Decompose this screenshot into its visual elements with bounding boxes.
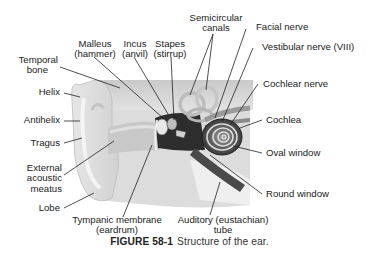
label-malleus-line2: (hammer) xyxy=(69,49,121,59)
label-tragus: Tragus xyxy=(2,138,60,148)
ear-structure-figure: Malleus (hammer) Incus (anvil) Stapes (s… xyxy=(0,0,379,253)
label-tympanic-line2: (eardrum) xyxy=(62,225,172,235)
label-incus: Incus (anvil) xyxy=(117,39,153,60)
figure-number: FIGURE 58-1 xyxy=(110,236,173,247)
label-auditory-line2: tube xyxy=(170,225,276,235)
label-incus-line2: (anvil) xyxy=(117,49,153,59)
figure-caption-text: Structure of the ear. xyxy=(177,236,269,247)
temporal-bone-shape xyxy=(98,80,253,110)
label-tympanic-membrane: Tympanic membrane (eardrum) xyxy=(62,215,172,236)
label-external-acoustic-meatus: External acoustic meatus xyxy=(2,163,62,194)
label-cochlear-nerve: Cochlear nerve xyxy=(263,79,328,89)
label-stapes-line2: (stirrup) xyxy=(150,49,190,59)
label-semicircular-line2: canals xyxy=(186,23,246,33)
label-cochlea: Cochlea xyxy=(266,115,301,125)
label-stapes: Stapes (stirrup) xyxy=(150,39,190,60)
label-vestibular-nerve: Vestibular nerve (VIII) xyxy=(262,42,354,52)
label-oval-window: Oval window xyxy=(266,148,320,158)
label-auditory-tube: Auditory (eustachian) tube xyxy=(170,215,276,236)
label-lobe: Lobe xyxy=(2,203,60,213)
label-semicircular-canals: Semicircular canals xyxy=(186,13,246,34)
figure-caption: FIGURE 58-1Structure of the ear. xyxy=(0,236,379,247)
label-antihelix: Antihelix xyxy=(2,115,60,125)
label-eam-line3: meatus xyxy=(2,184,62,194)
label-facial-nerve: Facial nerve xyxy=(256,22,308,32)
label-helix: Helix xyxy=(2,87,60,97)
label-temporal-line2: bone xyxy=(2,65,58,75)
label-round-window: Round window xyxy=(266,189,329,199)
label-temporal-bone: Temporal bone xyxy=(2,55,58,76)
label-malleus: Malleus (hammer) xyxy=(69,39,121,60)
